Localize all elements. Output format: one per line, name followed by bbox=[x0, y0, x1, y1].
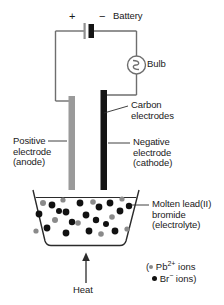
pb-ion-particle bbox=[98, 231, 104, 237]
br-ion-particle bbox=[77, 200, 84, 207]
legend-br-tail: ions) bbox=[173, 273, 196, 284]
heat-arrow bbox=[82, 253, 90, 284]
br-ion-particle bbox=[56, 208, 62, 214]
battery-symbol bbox=[84, 23, 95, 39]
legend-br-text: Br bbox=[157, 273, 169, 284]
electrolyte-label: Molten lead(II)bromide(electrolyte) bbox=[152, 199, 211, 231]
positive-sign: + bbox=[69, 10, 75, 22]
battery-label: Battery bbox=[113, 11, 142, 22]
br-ion-particle bbox=[86, 228, 93, 235]
positive-electrode-label: Positiveelectrode(anode) bbox=[13, 136, 51, 168]
pb-ion-particle bbox=[60, 197, 65, 202]
br-ion-particle bbox=[112, 228, 119, 235]
br-ion-particle bbox=[93, 217, 99, 223]
negative-sign: − bbox=[99, 10, 105, 22]
br-ion-particle bbox=[117, 208, 124, 215]
bulb-label: Bulb bbox=[147, 59, 166, 70]
heat-arrow-head bbox=[82, 253, 90, 262]
br-ion-particle bbox=[83, 212, 90, 219]
circuit-wires bbox=[56, 31, 137, 101]
br-ion-particle bbox=[96, 204, 103, 211]
battery-long-plate bbox=[84, 23, 86, 39]
br-ion-particle bbox=[103, 221, 109, 227]
pb-ion-particle bbox=[109, 214, 115, 220]
pb-ion-particle bbox=[40, 200, 46, 206]
br-ion-particle bbox=[63, 230, 70, 237]
leader-carbon-electrodes bbox=[104, 106, 128, 113]
pb-ion-particle bbox=[124, 226, 129, 231]
br-ion-particle bbox=[107, 200, 114, 207]
br-ion-particle bbox=[44, 225, 51, 232]
br-ion-particle bbox=[126, 203, 132, 209]
negative-electrode-label: Negativeelectrode(cathode) bbox=[133, 137, 172, 169]
pb-ion-swatch-icon bbox=[149, 265, 153, 269]
br-ion-particle bbox=[63, 209, 70, 216]
pb-ion-particle bbox=[90, 199, 96, 205]
pb-ion-particle bbox=[75, 220, 81, 226]
legend-br-ion: Br− ions) bbox=[152, 270, 196, 285]
pb-ion-particle bbox=[119, 196, 124, 201]
br-ion-particle bbox=[36, 211, 43, 218]
electrolysis-diagram: + − Battery Bulb Carbonelectrodes Positi… bbox=[0, 0, 224, 305]
heat-label: Heat bbox=[73, 285, 93, 296]
battery-short-plate bbox=[89, 24, 95, 38]
pb-ion-particle bbox=[33, 228, 38, 233]
bulb-symbol bbox=[128, 56, 146, 74]
carbon-electrodes-label: Carbonelectrodes bbox=[131, 100, 174, 121]
pb-ion-particle bbox=[52, 217, 58, 223]
br-ion-particle bbox=[69, 219, 75, 225]
br-ion-particle bbox=[49, 202, 56, 209]
